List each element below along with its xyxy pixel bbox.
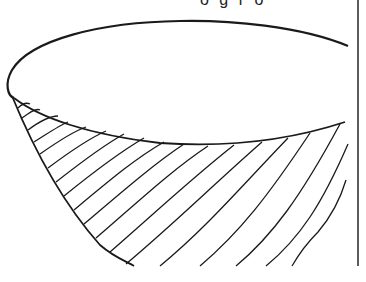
inner-rim-edge — [14, 98, 345, 144]
bowl-outer-edge — [12, 96, 134, 266]
bowl-rim — [8, 21, 348, 98]
bowl-drawing — [0, 0, 366, 282]
hatch-lines — [18, 103, 348, 266]
cropped-caption-text: o g r o — [200, 0, 340, 9]
bowl-diagram: o g r o — [0, 0, 366, 282]
